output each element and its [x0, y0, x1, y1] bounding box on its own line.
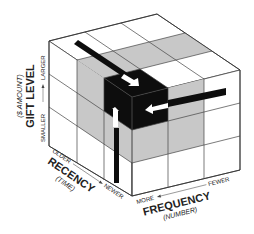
rfm-cube-diagram: ($ AMOUNT) GIFT LEVEL SMALLER LARGER OLD…: [0, 0, 254, 234]
gift-level-axis: ($ AMOUNT) GIFT LEVEL SMALLER LARGER: [15, 55, 46, 142]
gift-level-title: GIFT LEVEL: [24, 64, 36, 128]
gift-level-low: SMALLER: [40, 113, 46, 142]
gift-level-high: LARGER: [40, 55, 46, 80]
frequency-high: FEWER: [208, 176, 231, 187]
gift-level-subtitle: ($ AMOUNT): [15, 74, 24, 118]
